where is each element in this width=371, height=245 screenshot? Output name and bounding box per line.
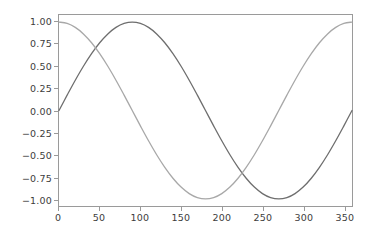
x-tick-mark <box>140 207 141 211</box>
x-tick-mark <box>345 207 346 211</box>
x-tick-mark <box>222 207 223 211</box>
x-tick-mark <box>99 207 100 211</box>
y-tick-label: 0.25 <box>30 83 52 94</box>
x-tick-label: 300 <box>294 212 313 223</box>
y-tick-label: −0.50 <box>22 150 52 161</box>
y-axis-tick-labels: 1.000.750.500.250.00−0.25−0.50−0.75−1.00 <box>0 0 52 245</box>
x-tick-mark <box>58 207 59 211</box>
x-tick-mark <box>263 207 264 211</box>
x-tick-label: 350 <box>335 212 354 223</box>
y-tick-label: 0.50 <box>30 60 52 71</box>
curves-svg <box>59 15 352 206</box>
x-tick-mark <box>181 207 182 211</box>
y-tick-label: −0.75 <box>22 172 52 183</box>
x-tick-label: 250 <box>253 212 272 223</box>
x-tick-label: 100 <box>131 212 150 223</box>
y-tick-label: 0.75 <box>30 38 52 49</box>
x-tick-mark <box>304 207 305 211</box>
y-tick-label: −1.00 <box>22 194 52 205</box>
series-line-sine <box>59 22 352 199</box>
x-tick-label: 200 <box>213 212 232 223</box>
y-tick-label: 1.00 <box>30 16 52 27</box>
plot-area <box>58 14 353 207</box>
x-tick-label: 50 <box>93 212 106 223</box>
x-tick-label: 150 <box>172 212 191 223</box>
y-tick-label: −0.25 <box>22 127 52 138</box>
y-tick-label: 0.00 <box>30 105 52 116</box>
chart-figure: 1.000.750.500.250.00−0.25−0.50−0.75−1.00… <box>0 0 371 245</box>
x-tick-label: 0 <box>55 212 61 223</box>
